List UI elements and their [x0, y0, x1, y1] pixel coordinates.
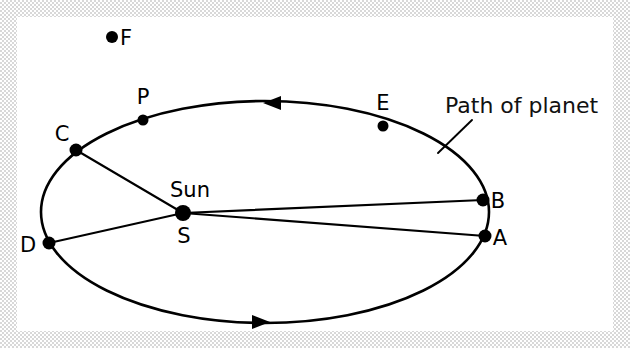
orbit-point-dot-p: [138, 115, 149, 126]
orbit-point-label-e: E: [376, 91, 389, 115]
orbit-point-dot-e: [378, 121, 389, 132]
orbit-diagram: Sun S FPCDEBA Path of planet: [0, 0, 630, 348]
figure-root: Sun S FPCDEBA Path of planet: [0, 0, 630, 348]
sun-name-label: Sun: [170, 178, 210, 202]
orbit-point-dot-c: [70, 144, 83, 157]
orbit-point-dot-d: [43, 237, 56, 250]
orbit-point-dot-f: [106, 31, 118, 43]
orbit-point-label-d: D: [20, 233, 36, 257]
sun-dot: [175, 205, 191, 221]
sun-point-label: S: [177, 224, 190, 248]
orbit-point-label-b: B: [491, 189, 505, 213]
orbit-point-dot-a: [479, 230, 492, 243]
orbit-point-dot-b: [477, 194, 490, 207]
orbit-point-label-c: C: [55, 122, 70, 146]
path-of-planet-label: Path of planet: [445, 93, 599, 118]
orbit-point-label-a: A: [493, 226, 508, 250]
orbit-point-label-p: P: [137, 85, 150, 109]
paper-background: [17, 17, 613, 331]
orbit-point-label-f: F: [120, 26, 132, 50]
